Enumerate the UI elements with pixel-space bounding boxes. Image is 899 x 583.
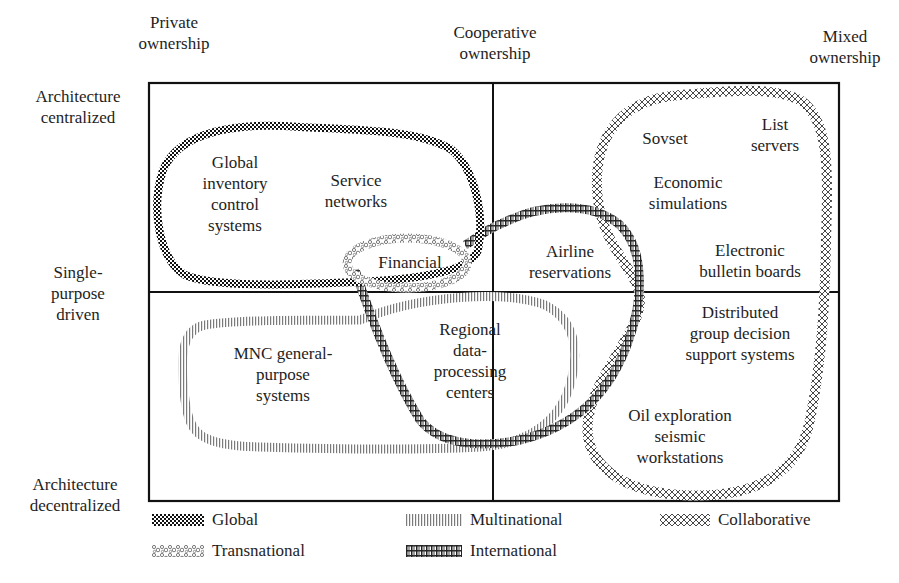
legend-multinational: Multinational	[406, 510, 563, 530]
node-dgdss: Distributed group decision support syste…	[665, 302, 815, 365]
legend-collaborative: Collaborative	[660, 510, 811, 530]
axis-label-single-purpose: Single- purpose driven	[18, 262, 138, 325]
node-electronic-bulletin-boards: Electronic bulletin boards	[680, 240, 820, 282]
axis-label-mixed: Mixed ownership	[790, 26, 899, 68]
node-financial: Financial	[360, 252, 460, 273]
node-airline: Airline reservations	[510, 241, 630, 283]
axis-label-private: Private ownership	[114, 12, 234, 54]
legend-transnational: Transnational	[152, 541, 305, 561]
node-global-inventory: Global inventory control systems	[180, 152, 290, 236]
axis-label-decentralized: Architecture decentralized	[10, 474, 140, 516]
legend-international: International	[406, 541, 557, 561]
axis-label-centralized: Architecture centralized	[18, 86, 138, 128]
international-swatch-icon	[406, 545, 462, 557]
axis-label-cooperative: Cooperative ownership	[430, 22, 560, 64]
node-service-networks: Service networks	[306, 170, 406, 212]
node-regional: Regional data- processing centers	[420, 319, 520, 403]
node-oil-exploration: Oil exploration seismic workstations	[605, 405, 755, 468]
global-swatch-icon	[152, 514, 204, 526]
multinational-swatch-icon	[406, 514, 462, 526]
node-list-servers: List servers	[735, 114, 815, 156]
legend-global: Global	[152, 510, 258, 530]
transnational-swatch-icon	[152, 545, 204, 557]
node-mnc: MNC general- purpose systems	[218, 343, 348, 406]
node-economic-simulations: Economic simulations	[628, 172, 748, 214]
collaborative-swatch-icon	[660, 514, 710, 526]
node-sovset: Sovset	[630, 128, 700, 149]
